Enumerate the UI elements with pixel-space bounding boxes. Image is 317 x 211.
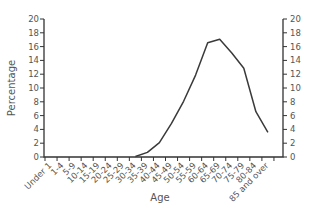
line-chart: 02468101214161820 02468101214161820 Unde… [0,0,317,211]
y-right-tick-label: 20 [290,14,301,24]
y-right-tick-label: 16 [290,42,301,52]
y-right-tick-label: 14 [290,55,301,65]
y-right-tick-label: 4 [290,124,295,134]
y-right-tick-label: 6 [290,111,295,121]
series-line-percentage [135,39,268,156]
y-left-tick-label: 2 [34,138,39,148]
y-left-tick-label: 20 [28,14,39,24]
y-left-tick-label: 12 [28,69,39,79]
x-tick-label: Under 1 [22,160,53,191]
y-left-tick-label: 0 [34,152,39,162]
x-axis-title: Age [150,192,169,203]
y-left-tick-label: 8 [34,97,39,107]
y-right-tick-label: 12 [290,69,301,79]
y-left-tick-label: 18 [28,28,39,38]
left-y-axis-ticks: 02468101214161820 [28,14,44,162]
y-left-tick-label: 16 [28,42,39,52]
y-left-tick-label: 10 [28,83,39,93]
y-left-tick-label: 6 [34,111,39,121]
right-y-axis-ticks: 02468101214161820 [283,14,301,162]
y-right-tick-label: 2 [290,138,295,148]
y-right-tick-label: 0 [290,152,295,162]
y-left-tick-label: 4 [34,124,39,134]
y-right-tick-label: 10 [290,83,301,93]
y-axis-title: Percentage [6,60,17,116]
y-right-tick-label: 8 [290,97,295,107]
x-axis-ticks: Under 11-45-910-1415-1920-2425-2930-3435… [22,157,274,204]
y-left-tick-label: 14 [28,55,39,65]
y-right-tick-label: 18 [290,28,301,38]
